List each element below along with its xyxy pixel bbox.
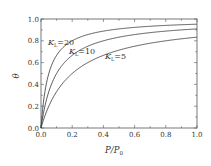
y-tick-label: 0.2 [28,103,39,111]
x-tick-label: 1.0 [191,131,202,139]
curve-k-l-5 [41,37,197,128]
y-tick-label: 0.6 [28,59,40,67]
y-tick-label: 0.4 [28,81,40,89]
plot-frame [41,19,197,128]
x-tick-label: 0.6 [129,131,141,139]
x-tick-label: 0.4 [98,131,110,139]
tick-labels: 0.00.20.40.60.81.00.00.20.40.60.81.0 [28,16,203,140]
y-tick-label: 0.8 [28,37,39,45]
y-tick-label: 1.0 [28,16,39,24]
y-axis-label: θ [11,73,21,78]
x-tick-label: 0.8 [160,131,171,139]
x-tick-label: 0.2 [67,131,78,139]
y-tick-label: 0.0 [28,125,39,133]
langmuir-isotherm-chart: 0.00.20.40.60.81.00.00.20.40.60.81.0 KL=… [0,0,211,166]
curve-label-k5: KL=5 [104,52,126,62]
x-axis-label: P/P0 [104,145,123,156]
axis-ticks [41,19,197,128]
curve-label-k10: KL=10 [68,47,95,57]
